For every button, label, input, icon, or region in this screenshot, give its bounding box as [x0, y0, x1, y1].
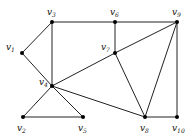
edge-v4-v2 [23, 86, 52, 117]
edge-v7-v8 [115, 53, 145, 117]
node-v6 [113, 20, 117, 24]
edge-v4-v7 [52, 53, 115, 86]
node-label-v6: v6 [110, 7, 119, 18]
node-label-v2: v2 [17, 123, 26, 134]
node-v9 [175, 20, 179, 24]
node-v4 [50, 84, 54, 88]
node-label-v1: v1 [6, 42, 15, 53]
edge-v9-v8 [145, 22, 177, 117]
graph-labels: v1v2v3v4v5v6v7v8v9v10 [6, 7, 185, 134]
node-v10 [175, 115, 179, 119]
node-v5 [81, 115, 85, 119]
node-v2 [21, 115, 25, 119]
edge-v1-v3 [22, 22, 52, 53]
node-v7 [113, 51, 117, 55]
node-label-v10: v10 [172, 123, 185, 134]
graph-diagram: v1v2v3v4v5v6v7v8v9v10 [0, 0, 192, 138]
node-v1 [20, 51, 24, 55]
node-label-v7: v7 [101, 42, 110, 53]
node-label-v5: v5 [78, 123, 87, 134]
node-v3 [50, 20, 54, 24]
node-v8 [143, 115, 147, 119]
node-label-v8: v8 [140, 123, 149, 134]
node-label-v9: v9 [172, 7, 181, 18]
node-label-v3: v3 [47, 7, 56, 18]
graph-nodes [20, 20, 179, 119]
graph-edges [22, 22, 177, 117]
edge-v4-v8 [52, 86, 145, 117]
node-label-v4: v4 [39, 77, 48, 88]
